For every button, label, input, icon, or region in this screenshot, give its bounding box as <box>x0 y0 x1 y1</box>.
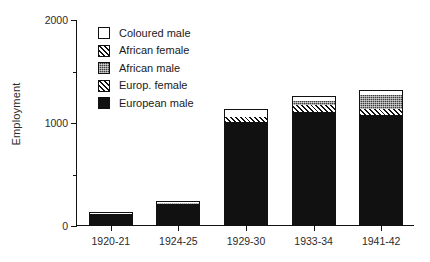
bar-segment-european-male <box>292 112 336 225</box>
x-tick-label: 1941-42 <box>362 236 401 247</box>
legend-item: African female <box>98 45 194 57</box>
bar-segment-coloured-male <box>292 97 336 102</box>
bar-segment-european-male <box>156 204 200 225</box>
y-axis-title: Employment <box>10 54 22 174</box>
legend-item-label: Europ. female <box>119 80 187 91</box>
y-tick-label: 2000 <box>45 15 68 26</box>
y-tick <box>71 226 77 227</box>
bar-top-edge <box>156 201 200 202</box>
bar-segment-europ-female <box>359 109 403 115</box>
legend-item-label: Coloured male <box>119 28 191 39</box>
y-tick <box>71 123 77 124</box>
bar-segment-coloured-male <box>156 202 200 203</box>
x-tick-label: 1920-21 <box>92 236 131 247</box>
white-swatch <box>98 27 110 39</box>
bar-1933-34[interactable] <box>292 97 336 225</box>
x-tick-label: 1929-30 <box>227 236 266 247</box>
x-tick <box>381 225 382 231</box>
legend-item: Coloured male <box>98 27 194 39</box>
bar-1929-30[interactable] <box>224 110 268 225</box>
chart-legend: Coloured maleAfrican femaleAfrican maleE… <box>98 27 194 109</box>
x-tick <box>111 225 112 231</box>
stipple-swatch <box>98 62 110 74</box>
bar-1924-25[interactable] <box>156 202 200 225</box>
y-tick-minor <box>73 72 77 73</box>
bar-1941-42[interactable] <box>359 91 403 225</box>
bar-segment-european-male <box>89 214 133 225</box>
y-tick-label: 1000 <box>45 118 68 129</box>
y-tick-minor <box>73 175 77 176</box>
x-tick <box>246 225 247 231</box>
legend-item: Europ. female <box>98 80 194 92</box>
bar-segment-coloured-male <box>359 91 403 95</box>
bar-segment-coloured-male <box>89 213 133 214</box>
bar-segment-coloured-male <box>224 110 268 117</box>
legend-item-label: African male <box>119 63 180 74</box>
bar-segment-europ-female <box>292 105 336 112</box>
y-tick <box>71 20 77 21</box>
legend-item-label: African female <box>119 45 189 56</box>
bar-top-edge <box>359 90 403 91</box>
bar-segment-europ-female <box>224 117 268 122</box>
bar-segment-african-male <box>292 101 336 104</box>
y-tick-label: 0 <box>62 221 68 232</box>
solid-swatch <box>98 97 110 109</box>
bar-segment-african-male <box>156 202 200 204</box>
employment-stacked-bar-chart: Employment 010002000 1920-211924-251929-… <box>0 0 430 262</box>
bar-top-edge <box>89 212 133 213</box>
legend-item-label: European male <box>119 98 194 109</box>
hatch-swatch <box>98 45 110 57</box>
bar-top-edge <box>224 109 268 110</box>
bar-1920-21[interactable] <box>89 213 133 225</box>
x-tick-label: 1933-34 <box>294 236 333 247</box>
bar-top-edge <box>292 96 336 97</box>
x-tick <box>178 225 179 231</box>
legend-item: European male <box>98 97 194 109</box>
legend-item: African male <box>98 62 194 74</box>
hatch-swatch <box>98 80 110 92</box>
x-tick <box>314 225 315 231</box>
x-tick-label: 1924-25 <box>159 236 198 247</box>
bar-segment-european-male <box>224 122 268 225</box>
bar-segment-european-male <box>359 115 403 225</box>
bar-segment-african-male <box>359 95 403 108</box>
